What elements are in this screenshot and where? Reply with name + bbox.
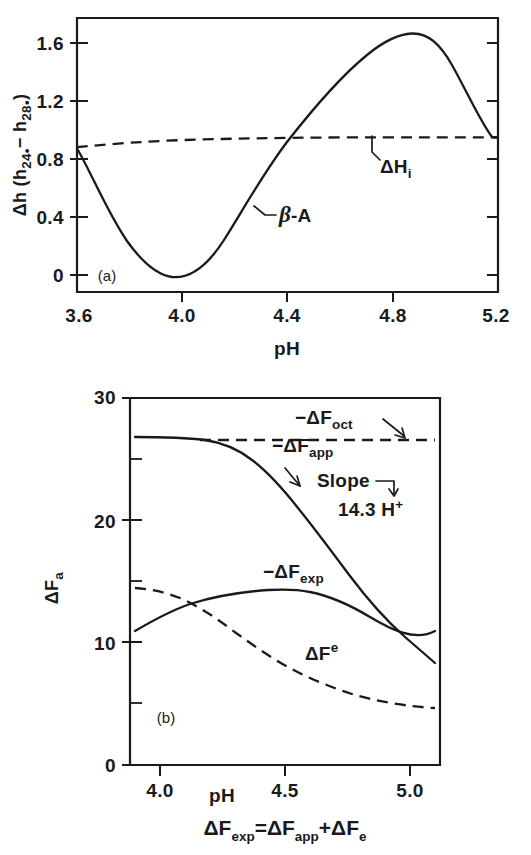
panel-b-curve-delta-f-app: [135, 437, 435, 663]
panel-a-xtick-0: 3.6: [65, 305, 93, 326]
panel-b: 0 10 20 30 4.0 4.5 5.0 pH ΔFa (b) −ΔFoct: [42, 387, 440, 806]
delta-f-e-main: ΔF: [305, 643, 331, 664]
caption-dF3: ΔF: [331, 816, 359, 839]
panel-b-xtick-0: 4.0: [146, 780, 174, 801]
panel-b-ytick-0: 0: [105, 755, 116, 776]
panel-a-ytick-0: 0: [53, 265, 64, 286]
panel-b-label-slope-value: 14.3 H+: [338, 497, 403, 520]
panel-a-xaxis-title: pH: [274, 338, 300, 359]
caption-sub-exp: exp: [231, 829, 254, 844]
panel-a-ylabel-p1: Δh (h: [10, 169, 30, 216]
figure-caption-equation: ΔFexp=ΔFapp+ΔFe: [203, 816, 367, 844]
panel-a-ylabel-close: ): [10, 94, 30, 100]
panel-b-label-delta-f-app: −ΔFapp: [272, 435, 334, 460]
delta-f-oct-sub: oct: [332, 417, 353, 432]
panel-a-x-ticks: [182, 292, 393, 302]
panel-a-yaxis-title: Δh (h24•− h28•): [10, 94, 34, 216]
panel-b-label-delta-f-oct: −ΔFoct: [295, 407, 353, 432]
figure-svg: 0 0.4 0.8 1.2 1.6 3.6 4.0 4.4 4.8 5.2 pH…: [0, 0, 531, 855]
panel-b-ylabel-sub: a: [51, 572, 66, 580]
beta-a-suffix: -A: [291, 205, 312, 226]
panel-a-xtick-1: 4.0: [168, 305, 196, 326]
delta-f-oct-minus: −: [295, 407, 306, 428]
panel-b-y-ticks-minor: [130, 459, 142, 703]
panel-a-ylabel-sub1: 24•: [19, 148, 34, 169]
panel-b-xtick-1: 4.5: [271, 780, 299, 801]
delta-h-main: ΔH: [380, 156, 408, 177]
scientific-figure: 0 0.4 0.8 1.2 1.6 3.6 4.0 4.4 4.8 5.2 pH…: [0, 0, 531, 855]
panel-b-ytick-2: 20: [94, 511, 116, 532]
panel-b-yaxis-title: ΔFa: [42, 572, 66, 605]
panel-a-xtick-2: 4.4: [273, 305, 301, 326]
panel-a-curve-beta-a: [77, 33, 498, 277]
beta-glyph: β: [278, 202, 291, 227]
panel-a-ylabel-minus: − h: [10, 121, 30, 148]
panel-a: 0 0.4 0.8 1.2 1.6 3.6 4.0 4.4 4.8 5.2 pH…: [10, 18, 510, 359]
slope-value-sup: +: [395, 497, 403, 512]
delta-f-oct-main: ΔF: [306, 407, 332, 428]
panel-a-ytick-2: 0.8: [36, 149, 64, 170]
caption-dF1: ΔF: [203, 816, 231, 839]
panel-b-x-ticks: [160, 765, 410, 776]
panel-b-label-delta-f-exp: −ΔFexp: [263, 561, 324, 586]
panel-a-frame: [77, 18, 498, 292]
panel-b-curve-delta-f-exp: [135, 590, 435, 636]
delta-f-e-sup: e: [331, 640, 339, 655]
panel-a-leader-beta-a: [254, 206, 276, 215]
panel-b-label-delta-f-e: ΔFe: [305, 640, 339, 664]
panel-a-leader-delta-hi: [372, 136, 380, 160]
panel-a-ytick-4: 1.6: [36, 33, 64, 54]
svg-text:ΔFexp=ΔFapp+ΔFe: ΔFexp=ΔFapp+ΔFe: [203, 816, 367, 844]
panel-a-xtick-4: 5.2: [482, 305, 510, 326]
caption-dF2: ΔF: [267, 816, 295, 839]
slope-value-text: 14.3 H: [338, 499, 395, 520]
delta-f-exp-minus: −: [263, 561, 274, 582]
panel-b-ytick-3: 30: [94, 387, 116, 408]
delta-f-app-main: ΔF: [283, 435, 309, 456]
svg-text:Δh (h24•− h28•): Δh (h24•− h28•): [10, 94, 34, 216]
delta-f-app-minus: −: [272, 435, 283, 456]
delta-h-sub: i: [408, 166, 412, 181]
delta-f-exp-sub: exp: [300, 571, 324, 586]
delta-f-app-sub: app: [309, 445, 334, 460]
panel-b-xtick-2: 5.0: [396, 780, 424, 801]
panel-b-ytick-1: 10: [94, 633, 116, 654]
caption-plus: +: [319, 816, 331, 839]
panel-a-label-beta-a: β-A: [278, 202, 312, 227]
delta-f-exp-main: ΔF: [274, 561, 300, 582]
svg-text:ΔFa: ΔFa: [42, 572, 66, 605]
panel-a-right-ticks: [487, 43, 498, 275]
panel-b-xaxis-title: pH: [209, 785, 235, 806]
panel-a-label-delta-hi: ΔHi: [380, 156, 412, 181]
panel-a-xtick-3: 4.8: [379, 305, 407, 326]
panel-a-ylabel-sub2: 28•: [19, 100, 34, 121]
panel-b-tag: (b): [157, 709, 175, 726]
panel-b-leader-delta-f-oct: [383, 419, 404, 436]
panel-a-tag: (a): [98, 267, 116, 284]
panel-b-label-slope: Slope: [317, 470, 370, 491]
caption-equals: =: [255, 816, 267, 839]
panel-a-ytick-3: 1.2: [36, 91, 64, 112]
caption-sub-e: e: [359, 829, 367, 844]
panel-b-ylabel-main: ΔF: [42, 580, 62, 605]
caption-sub-app: app: [295, 829, 319, 844]
panel-a-y-ticks: [70, 43, 88, 275]
panel-b-curve-delta-f-e: [135, 588, 435, 708]
panel-a-ytick-1: 0.4: [36, 207, 64, 228]
